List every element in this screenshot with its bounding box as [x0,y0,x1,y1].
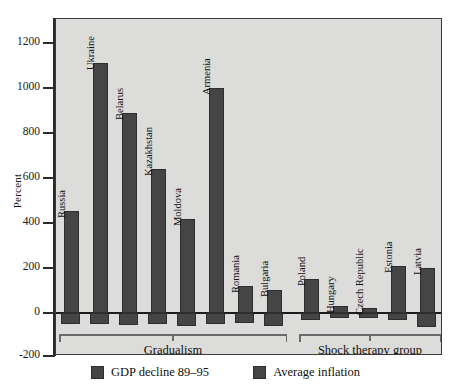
tick-label-800: 800 [0,126,40,137]
legend-label-gdp-decline: GDP decline 89–95 [111,365,209,380]
category-label-kazakhstan: Kazakhstan [143,127,154,176]
tick-mark-1200 [43,42,55,44]
legend-label-average-inflation: Average inflation [273,365,360,380]
tick-label-0: 0 [0,306,40,317]
category-label-latvia: Latvia [412,248,423,275]
legend-swatch-icon-average-inflation [253,366,266,379]
bar-gdp-belarus[interactable] [119,313,138,325]
tick-mark-neg200 [43,355,55,357]
tick-label-1000: 1000 [0,81,40,92]
category-label-estonia: Estonia [383,242,394,274]
tick-mark-0 [43,312,55,314]
legend-swatch-icon-gdp-decline [91,366,104,379]
bar-inflation-kazakhstan[interactable] [151,169,166,313]
bar-inflation-belarus[interactable] [122,113,137,313]
category-label-hungary: Hungary [325,276,336,313]
group-bracket-gradualism [59,331,287,342]
category-label-poland: Poland [296,257,307,286]
chart-legend: GDP decline 89–95 Average inflation [0,361,451,383]
group-label-shock-therapy: Shock therapy group [299,343,441,355]
bar-gdp-kazakhstan[interactable] [148,313,167,324]
category-label-armenia: Armenia [201,58,212,95]
category-label-bulgaria: Bulgaria [259,261,270,297]
bar-inflation-moldova[interactable] [180,219,195,313]
bar-gdp-armenia[interactable] [206,313,225,324]
bar-gdp-bulgaria[interactable] [264,313,283,326]
group-bracket-shock-therapy [299,331,441,342]
bar-gdp-estonia[interactable] [388,313,407,320]
bar-inflation-estonia[interactable] [391,266,406,313]
category-label-ukraine: Ukraine [85,36,96,70]
bar-gdp-poland[interactable] [301,313,320,320]
tick-label-neg200: -200 [0,349,40,360]
bar-inflation-armenia[interactable] [209,88,224,313]
bar-inflation-ukraine[interactable] [93,63,108,313]
tick-mark-1000 [43,87,55,89]
category-label-romania: Romania [230,255,241,293]
tick-label-600: 600 [0,171,40,182]
tick-mark-800 [43,132,55,134]
tick-label-200: 200 [0,261,40,272]
legend-item-average-inflation[interactable]: Average inflation [253,365,360,380]
bar-gdp-moldova[interactable] [177,313,196,326]
bar-inflation-russia[interactable] [64,211,79,313]
category-label-russia: Russia [56,190,67,218]
bar-gdp-hungary[interactable] [330,313,349,318]
category-label-belarus: Belarus [114,88,125,120]
bar-series-container: Russia Ukraine Belarus Kazakhstan Moldov… [56,19,441,354]
bar-gdp-latvia[interactable] [417,313,436,327]
tick-mark-400 [43,222,55,224]
tick-mark-200 [43,267,55,269]
bar-gdp-ukraine[interactable] [90,313,109,324]
chart-figure: Percent 1200 1000 800 600 400 200 0 -200… [0,0,451,384]
legend-item-gdp-decline[interactable]: GDP decline 89–95 [91,365,209,380]
tick-label-400: 400 [0,216,40,227]
bar-gdp-russia[interactable] [61,313,80,324]
category-label-moldova: Moldova [172,188,183,226]
category-label-czech: Czech Republic [354,248,365,315]
bar-gdp-romania[interactable] [235,313,254,323]
tick-label-1200: 1200 [0,36,40,47]
group-label-gradualism: Gradualism [59,343,287,355]
tick-mark-600 [43,177,55,179]
plot-area: Russia Ukraine Belarus Kazakhstan Moldov… [55,18,442,355]
